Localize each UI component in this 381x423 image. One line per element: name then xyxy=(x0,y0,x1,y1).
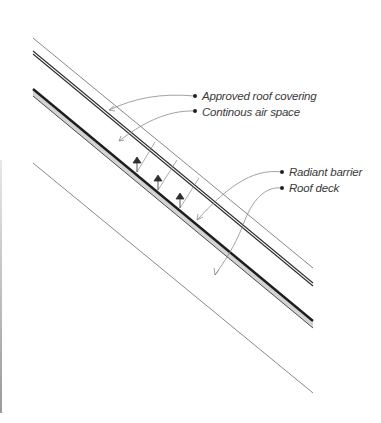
leader-roof-covering xyxy=(109,95,195,110)
leader-roof-deck xyxy=(215,188,282,275)
label-air-space: Continous air space xyxy=(202,106,300,118)
label-roof-covering: Approved roof covering xyxy=(201,90,317,102)
dot-icon xyxy=(193,109,197,113)
dot-icon xyxy=(280,186,284,190)
radiant-arrow-icon xyxy=(176,193,184,208)
roof-deck-layer xyxy=(33,89,313,328)
leader-radiant-barrier xyxy=(197,172,282,220)
label-roof-deck: Roof deck xyxy=(289,182,340,194)
roof-covering-layer xyxy=(33,51,313,286)
dot-icon xyxy=(193,94,197,98)
roof-covering-top-line xyxy=(33,38,313,268)
roof-section-diagram: Approved roof covering Continous air spa… xyxy=(0,0,381,423)
radiant-arrow-icon xyxy=(154,175,162,190)
arrowhead-icon xyxy=(214,268,219,275)
rafter-bottom-line xyxy=(33,163,313,393)
batten-lines xyxy=(137,142,199,208)
leader-air-space xyxy=(119,111,195,141)
radiant-arrow-icon xyxy=(133,157,141,172)
label-radiant-barrier: Radiant barrier xyxy=(289,166,363,178)
dot-icon xyxy=(280,170,284,174)
